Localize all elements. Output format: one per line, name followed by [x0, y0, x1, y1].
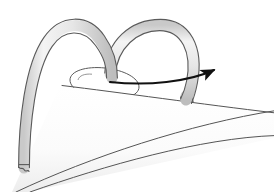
knot-diagram-figure: Knot tying step diagram Line drawing of …	[0, 0, 274, 192]
knot-illustration-svg	[0, 0, 274, 192]
